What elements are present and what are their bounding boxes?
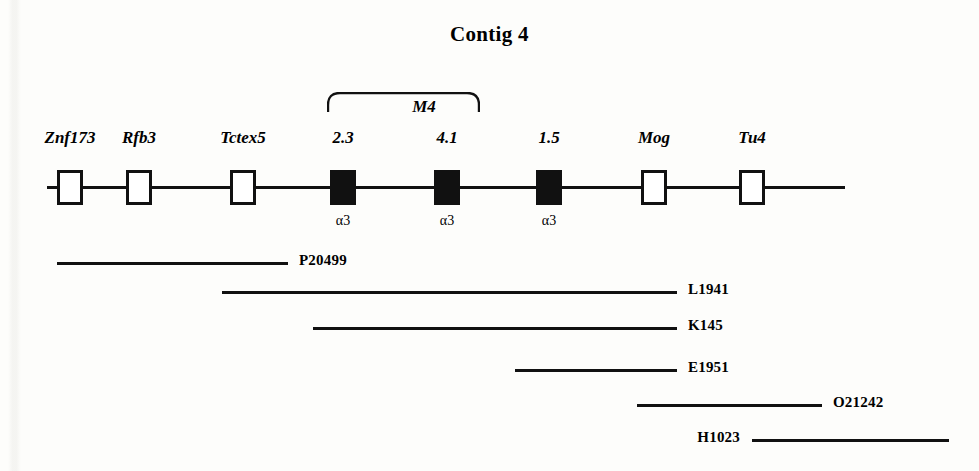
clone-line-p20499: [57, 262, 288, 265]
gene-box-mog: [641, 170, 667, 205]
clone-line-l1941: [222, 291, 677, 294]
gene-sublabel-41: α3: [440, 213, 454, 229]
clone-label-p20499: P20499: [299, 252, 347, 269]
clone-label-k145: K145: [688, 317, 723, 334]
gene-label-znf173: Znf173: [45, 128, 96, 148]
figure-title: Contig 4: [0, 22, 979, 47]
gene-box-2-3: [330, 170, 356, 205]
clone-label-h1023: H1023: [697, 429, 740, 446]
clone-line-k145: [313, 327, 677, 330]
gene-label-1-5: 1.5: [538, 128, 559, 148]
gene-label-2-3: 2.3: [332, 128, 353, 148]
clone-label-l1941: L1941: [688, 281, 729, 298]
m4-bracket-label: M4: [412, 97, 436, 117]
gene-label-4-1: 4.1: [436, 128, 457, 148]
gene-label-mog: Mog: [638, 128, 670, 148]
gene-label-rfb3: Rfb3: [122, 128, 156, 148]
contig-figure: Contig 4 M4 Znf173Rfb3Tctex52.3α34.1α31.…: [0, 0, 979, 471]
gene-box-rfb3: [126, 170, 152, 205]
clone-line-h1023: [752, 439, 949, 442]
gene-sublabel-23: α3: [336, 213, 350, 229]
gene-box-tu4: [739, 170, 765, 205]
gene-box-4-1: [434, 170, 460, 205]
scan-artifact: [8, 0, 21, 471]
gene-box-tctex5: [230, 170, 256, 205]
clone-label-e1951: E1951: [688, 359, 729, 376]
m4-bracket-icon: [327, 92, 480, 112]
clone-line-e1951: [515, 369, 677, 372]
clone-line-o21242: [637, 404, 822, 407]
gene-box-1-5: [536, 170, 562, 205]
gene-box-znf173: [57, 170, 83, 205]
clone-label-o21242: O21242: [833, 394, 883, 411]
gene-label-tctex5: Tctex5: [220, 128, 266, 148]
gene-label-tu4: Tu4: [738, 128, 766, 148]
gene-sublabel-15: α3: [542, 213, 556, 229]
